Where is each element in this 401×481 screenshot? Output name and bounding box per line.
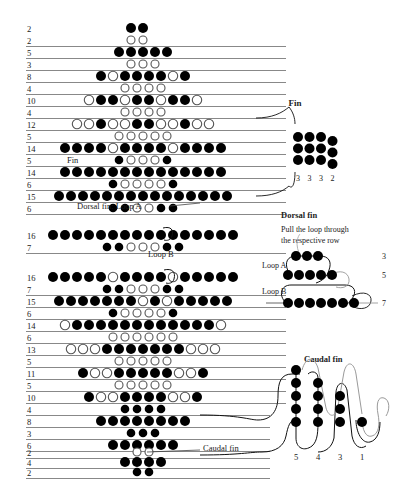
bead-filled — [305, 298, 315, 308]
bead-filled — [132, 230, 142, 240]
bead-open — [133, 108, 141, 116]
bead-filled — [294, 270, 304, 280]
bead-filled — [108, 167, 118, 177]
bead-filled — [114, 47, 124, 57]
row-count-label: 2 — [27, 36, 31, 46]
bead-open — [108, 143, 117, 152]
bead-open — [162, 296, 171, 305]
bead-filled — [338, 298, 348, 308]
bead-filled — [96, 167, 106, 177]
bead-filled — [150, 47, 160, 57]
bead-filled — [115, 243, 124, 252]
loop-b-label: Loop B — [148, 249, 174, 259]
row-count-label: 5 — [27, 48, 31, 58]
bead-filled — [145, 468, 154, 477]
bead-open — [216, 320, 225, 329]
bead-filled — [168, 95, 178, 105]
fin-column-label: 2 — [331, 174, 335, 183]
bead-open — [78, 344, 87, 353]
bead-filled — [293, 144, 303, 154]
bead-open — [121, 108, 129, 116]
row-count-label: 4 — [27, 458, 32, 468]
bead-filled — [120, 457, 130, 467]
bead-open — [180, 392, 189, 401]
bead-open — [145, 309, 153, 317]
bead-open — [60, 320, 69, 329]
bead-filled — [144, 272, 154, 282]
bead-open — [151, 381, 159, 389]
bead-filled — [335, 391, 345, 401]
bead-open — [90, 344, 99, 353]
bead-filled — [96, 71, 106, 81]
bead-filled — [60, 230, 70, 240]
bead-filled — [120, 392, 130, 402]
bead-filled — [192, 143, 202, 153]
bead-filled — [54, 296, 64, 306]
bead-open — [127, 285, 135, 293]
figure-canvas: 2253841041251451461561671671561461351151… — [0, 0, 401, 481]
caudal-thread-grey2-icon — [362, 398, 389, 437]
dorsal-row-label: 7 — [382, 299, 386, 308]
bead-open — [127, 381, 135, 389]
caudal-connector-upper-icon — [200, 374, 300, 420]
caudal-thread-grey-icon — [302, 359, 362, 415]
loop-a-label: Loop A — [262, 261, 286, 270]
bead-filled — [144, 320, 154, 330]
bead-filled — [144, 71, 154, 81]
bead-open — [192, 119, 201, 128]
bead-filled — [78, 191, 88, 201]
bead-filled — [72, 272, 82, 282]
row-count-label: 7 — [27, 243, 31, 253]
row-count-label: 5 — [27, 156, 31, 166]
bead-filled — [186, 191, 196, 201]
bead-filled — [120, 272, 130, 282]
bead-filled — [78, 296, 88, 306]
bead-filled — [145, 405, 154, 414]
bead-open — [102, 368, 111, 377]
bead-open — [90, 368, 99, 377]
bead-filled — [139, 429, 148, 438]
bead-filled — [291, 417, 301, 427]
row-count-label: 4 — [27, 108, 32, 118]
bead-filled — [84, 272, 94, 282]
bead-filled — [162, 47, 172, 57]
bead-filled — [109, 180, 118, 189]
row-count-label: 11 — [27, 369, 35, 379]
bead-filled — [222, 191, 232, 201]
fin-column-label: 3 — [308, 174, 312, 183]
bead-filled — [316, 144, 326, 154]
bead-filled — [156, 230, 166, 240]
bead-filled — [168, 416, 178, 426]
bead-filled — [313, 251, 323, 261]
bead-filled — [180, 71, 190, 81]
bead-filled — [120, 143, 130, 153]
bead-open — [121, 180, 129, 188]
bead-filled — [144, 95, 154, 105]
bead-filled — [291, 391, 301, 401]
dorsal-panel-title: Dorsal fin — [281, 210, 317, 220]
bead-open — [127, 243, 135, 251]
bead-filled — [96, 119, 106, 129]
bead-filled — [168, 167, 178, 177]
caudal-column-label: 1 — [360, 452, 364, 462]
row-count-label: 12 — [27, 120, 36, 130]
row-count-label: 7 — [27, 285, 31, 295]
bead-filled — [328, 159, 338, 169]
bead-open — [151, 357, 159, 365]
row-count-label: 8 — [27, 72, 31, 82]
bead-filled — [157, 204, 166, 213]
guide-lines-group — [26, 47, 286, 479]
bead-open — [169, 333, 177, 341]
bead-open — [198, 344, 207, 353]
bead-filled — [313, 417, 323, 427]
bead-filled — [316, 270, 326, 280]
bead-filled — [60, 143, 70, 153]
caudal-fin-inline: Caudal fin — [203, 443, 239, 453]
bead-filled — [138, 344, 148, 354]
bead-filled — [156, 440, 166, 450]
row-count-label: 6 — [27, 180, 31, 190]
bead-filled — [138, 191, 148, 201]
dorsal-loop-a: Dorsal fin: Loop A — [77, 201, 142, 211]
bead-filled — [103, 285, 112, 294]
bead-filled — [60, 167, 70, 177]
